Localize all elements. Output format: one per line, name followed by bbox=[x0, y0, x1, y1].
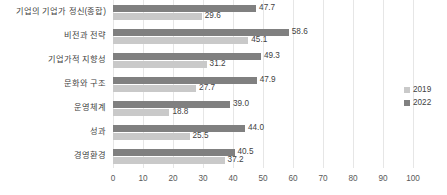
category-label: 기업가적 지향성 bbox=[0, 55, 106, 65]
bar-2019-5 bbox=[113, 109, 169, 116]
bar-2019-6 bbox=[113, 133, 190, 140]
category-label: 비전과 전략 bbox=[0, 31, 106, 41]
bar-2022-1 bbox=[113, 5, 256, 12]
legend-item-2019[interactable]: 2019 bbox=[404, 84, 447, 95]
bar-value-label: 18.8 bbox=[172, 108, 188, 116]
bar-value-label: 49.3 bbox=[264, 52, 280, 60]
x-tick-label: 30 bbox=[198, 174, 207, 184]
bar-value-label: 37.2 bbox=[228, 156, 244, 164]
plot-area: 47.729.658.645.149.331.247.927.739.018.8… bbox=[113, 0, 413, 168]
bar-value-label: 27.7 bbox=[199, 84, 215, 92]
gridline bbox=[383, 0, 384, 168]
gridline bbox=[263, 0, 264, 168]
x-tick-label: 20 bbox=[168, 174, 177, 184]
bar-value-label: 29.6 bbox=[205, 12, 221, 20]
bar-2022-6 bbox=[113, 125, 245, 132]
x-tick-label: 0 bbox=[111, 174, 116, 184]
gridline bbox=[323, 0, 324, 168]
bar-value-label: 31.2 bbox=[210, 60, 226, 68]
legend-label: 2022 bbox=[413, 98, 431, 107]
bar-value-label: 47.7 bbox=[259, 4, 275, 12]
x-tick-label: 100 bbox=[406, 174, 420, 184]
category-label: 문화와 구조 bbox=[0, 79, 106, 89]
bar-2019-2 bbox=[113, 37, 248, 44]
category-label: 운영체계 bbox=[0, 103, 106, 113]
x-tick-label: 50 bbox=[258, 174, 267, 184]
x-tick-label: 40 bbox=[228, 174, 237, 184]
bar-chart: 기업의 기업가 정신(종합)비전과 전략기업가적 지향성문화와 구조운영체계성과… bbox=[0, 0, 447, 195]
x-tick-label: 80 bbox=[348, 174, 357, 184]
gridline bbox=[293, 0, 294, 168]
bar-2022-3 bbox=[113, 53, 261, 60]
bar-value-label: 39.0 bbox=[233, 100, 249, 108]
bar-value-label: 44.0 bbox=[248, 124, 264, 132]
value-axis: 0102030405060708090100 bbox=[113, 168, 413, 195]
bar-2022-7 bbox=[113, 149, 235, 156]
bar-2019-4 bbox=[113, 85, 196, 92]
category-label: 기업의 기업가 정신(종합) bbox=[0, 7, 106, 17]
bar-value-label: 47.9 bbox=[260, 76, 276, 84]
bar-value-label: 25.5 bbox=[193, 132, 209, 140]
bar-2019-7 bbox=[113, 157, 225, 164]
gridline bbox=[353, 0, 354, 168]
legend-swatch-icon bbox=[404, 87, 410, 93]
legend-item-2022[interactable]: 2022 bbox=[404, 97, 447, 108]
legend-label: 2019 bbox=[413, 85, 431, 94]
x-tick-label: 70 bbox=[318, 174, 327, 184]
x-tick-label: 10 bbox=[138, 174, 147, 184]
category-label: 성과 bbox=[0, 127, 106, 137]
category-label: 경영환경 bbox=[0, 151, 106, 161]
category-axis: 기업의 기업가 정신(종합)비전과 전략기업가적 지향성문화와 구조운영체계성과… bbox=[0, 0, 110, 168]
legend-swatch-icon bbox=[404, 100, 410, 106]
bar-2022-4 bbox=[113, 77, 257, 84]
chart-legend: 20192022 bbox=[404, 84, 447, 110]
bar-value-label: 58.6 bbox=[292, 28, 308, 36]
x-tick-label: 60 bbox=[288, 174, 297, 184]
bar-2019-1 bbox=[113, 13, 202, 20]
x-tick-label: 90 bbox=[378, 174, 387, 184]
bar-value-label: 45.1 bbox=[251, 36, 267, 44]
gridline bbox=[233, 0, 234, 168]
bar-2019-3 bbox=[113, 61, 207, 68]
